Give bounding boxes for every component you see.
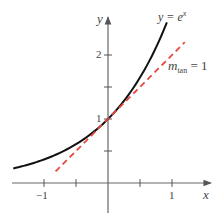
plot-area (0, 0, 223, 221)
tangent-line (56, 42, 185, 171)
y-tick-label-2: 2 (96, 49, 102, 60)
x-tick-label-neg1: −1 (36, 190, 48, 201)
curve-label: y = ex (158, 10, 186, 23)
y-axis-label: y (97, 12, 103, 25)
y-tick-label-1: 1 (96, 113, 102, 124)
exp-curve (13, 22, 167, 168)
x-tick-label-1: 1 (169, 190, 175, 201)
x-axis-label: x (203, 188, 209, 201)
tangent-label: mtan = 1 (168, 59, 208, 75)
